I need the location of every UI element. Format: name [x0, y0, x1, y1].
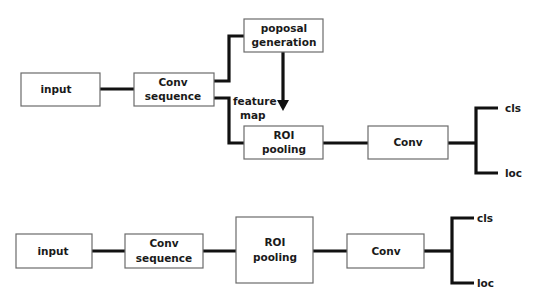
top-roi-pooling-box: ROI pooling [244, 126, 323, 159]
bottom-roi-pooling-label-2: pooling [253, 251, 297, 263]
bottom-roi-pooling-box: ROI pooling [236, 217, 313, 283]
top-conv-box: Conv [368, 126, 448, 159]
feature-map-label-2: map [240, 109, 266, 121]
top-conv-sequence-box: Conv sequence [134, 73, 214, 106]
proposal-generation-label-1: poposal [261, 22, 307, 34]
bottom-roi-pooling-label-1: ROI [265, 236, 286, 248]
top-input-box: input [21, 73, 100, 106]
proposal-generation-box: poposal generation [244, 19, 323, 52]
top-conv-sequence-label-2: sequence [145, 90, 201, 102]
bottom-cls-label: cls [477, 212, 493, 224]
top-cls-label: cls [505, 102, 521, 114]
arrow-down-icon [277, 100, 289, 111]
top-conv-sequence-label-1: Conv [158, 76, 187, 88]
proposal-generation-label-2: generation [252, 36, 317, 48]
output-branch-top [476, 108, 498, 173]
bottom-conv-label: Conv [371, 245, 400, 257]
bottom-conv-sequence-label-1: Conv [149, 237, 178, 249]
bottom-conv-sequence-box: Conv sequence [125, 234, 203, 268]
bottom-input-label: input [37, 245, 68, 257]
bottom-input-box: input [16, 234, 92, 268]
bottom-conv-sequence-label-2: sequence [136, 252, 192, 264]
output-branch-bottom [452, 218, 474, 283]
top-input-label: input [40, 83, 71, 95]
top-conv-label: Conv [393, 136, 422, 148]
bottom-loc-label: loc [477, 277, 494, 289]
diagram-canvas: input Conv sequence poposal generation f… [0, 0, 537, 297]
wire-conv-sequence-to-proposal [214, 36, 244, 81]
top-roi-pooling-label-1: ROI [274, 129, 295, 141]
top-roi-pooling-label-2: pooling [262, 143, 306, 155]
bottom-conv-box: Conv [347, 234, 424, 268]
feature-map-label-1: feature [233, 95, 277, 107]
top-loc-label: loc [505, 167, 522, 179]
